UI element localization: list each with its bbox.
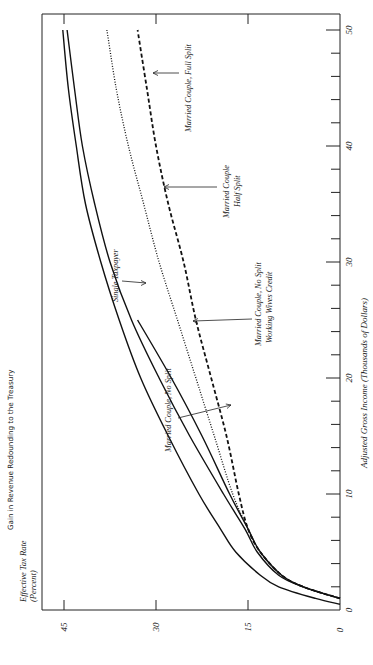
y-axis-label-line2: (Percent) — [28, 570, 38, 602]
series-married-couple-half-split — [107, 30, 340, 598]
annotation-label: Single Taxpayer — [111, 249, 120, 302]
x-tick-label: 20 — [344, 373, 354, 383]
annotation-label: Half Split — [233, 175, 242, 208]
y-axis-ticks — [64, 14, 248, 610]
annotation-label: Married Couple, Full Split — [184, 43, 193, 133]
series-group — [63, 30, 340, 604]
series-single-taxpayer — [63, 30, 340, 604]
annotations: Single Taxpayer Married Couple, No Split… — [111, 43, 274, 453]
annotation-working-wives-credit: Married Couple, No Split Working Wives C… — [193, 262, 274, 347]
annotation-label: Married Couple, No Split — [254, 262, 263, 347]
annotation-label: Working Wives Credit — [265, 271, 274, 343]
x-tick-label: 10 — [344, 489, 354, 499]
y-tick-label: 15 — [243, 622, 253, 632]
y-tick-label: 45 — [59, 622, 69, 632]
annotation-label: Married Couple, No Split — [164, 368, 173, 453]
x-tick-label: 50 — [344, 25, 354, 35]
y-axis-label-line1: Effective Tax Rate — [18, 540, 28, 603]
annotation-full-split: Married Couple, Full Split — [153, 43, 193, 133]
x-axis-tick-labels: 01020304050 — [344, 25, 354, 612]
y-tick-label: 0 — [335, 627, 345, 632]
x-axis-ticks — [326, 30, 340, 587]
series-married-couple-no-split — [67, 30, 340, 598]
tax-rate-chart: Gain in Revenue Redounding to the Treasu… — [0, 0, 373, 665]
x-tick-label: 30 — [344, 257, 354, 268]
annotation-single-taxpayer: Single Taxpayer — [111, 249, 146, 302]
annotation-married-no-split: Married Couple, No Split — [164, 368, 231, 453]
x-tick-label: 0 — [344, 607, 354, 612]
x-axis-label: Adjusted Gross Income (Thousands of Doll… — [359, 298, 369, 469]
annotation-label: Married Couple — [222, 165, 231, 219]
annotation-half-split: Married Couple Half Split — [164, 165, 242, 219]
x-tick-label: 40 — [344, 141, 354, 151]
chart-title: Gain in Revenue Redounding to the Treasu… — [6, 369, 15, 530]
series-married-couple-no-split-working-wives-credit — [138, 320, 340, 598]
y-axis-tick-labels: 0153045 — [59, 622, 345, 633]
y-tick-label: 30 — [151, 622, 161, 633]
